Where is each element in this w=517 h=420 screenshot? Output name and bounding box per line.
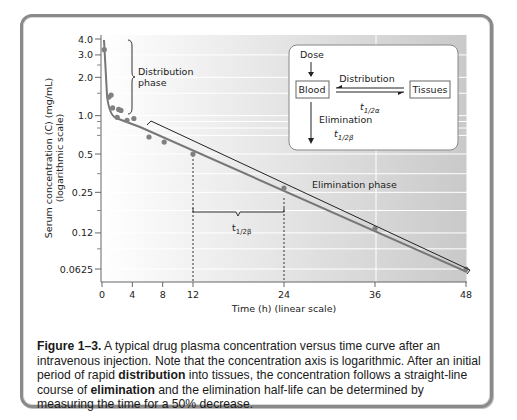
inset-diagram: Dose Blood Tissues Distribution t1/2α El… [289,45,458,150]
svg-text:0.0625: 0.0625 [60,264,93,275]
svg-text:0: 0 [99,289,105,300]
elimination-phase-label: Elimination phase [312,179,397,190]
svg-text:36: 36 [369,289,381,300]
svg-text:Serum concentration (C) (mg/mL: Serum concentration (C) (mg/mL) [43,78,54,238]
inset-elimination: Elimination [319,114,372,125]
y-ticks: 4.03.02.01.00.50.250.120.0625 [60,34,101,275]
x-axis-label: Time (h) (linear scale) [231,303,337,314]
inset-dose: Dose [300,49,324,60]
svg-text:1.0: 1.0 [78,110,93,121]
y-axis-label: Serum concentration (C) (mg/mL) (logarit… [43,78,65,238]
svg-text:3.0: 3.0 [78,49,93,60]
svg-text:0.5: 0.5 [78,149,93,160]
svg-text:2.0: 2.0 [78,72,93,83]
svg-text:8: 8 [160,289,166,300]
inset-blood: Blood [299,84,326,95]
svg-text:4.0: 4.0 [78,34,93,45]
svg-text:0.12: 0.12 [72,227,93,238]
svg-text:4: 4 [129,289,135,300]
svg-text:0.25: 0.25 [72,187,93,198]
distribution-phase-label-2: phase [138,77,167,88]
x-ticks: 04812243648 [99,282,472,300]
svg-text:(logarithmic scale): (logarithmic scale) [54,114,65,203]
svg-text:12: 12 [187,289,199,300]
svg-text:48: 48 [460,289,472,300]
caption-label: Figure 1–3. [37,339,101,353]
distribution-phase-label: Distribution [138,66,193,77]
svg-text:24: 24 [278,289,290,300]
caption-body: A typical drug plasma concentration vers… [37,339,481,411]
inset-tissues: Tissues [412,84,448,95]
figure-caption: Figure 1–3. A typical drug plasma concen… [37,339,482,412]
inset-distribution: Distribution [339,73,394,84]
